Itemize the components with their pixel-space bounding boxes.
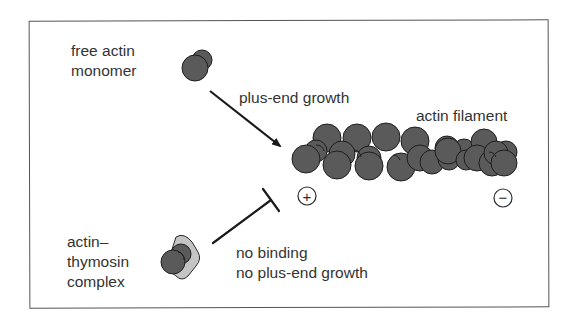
plus-end-marker: + bbox=[298, 187, 316, 205]
plus-end-growth-arrow bbox=[210, 91, 280, 146]
free-actin-monomer-icon bbox=[182, 50, 212, 81]
actin-filament-icon bbox=[292, 123, 517, 181]
diagram-artwork: + − bbox=[0, 0, 575, 325]
plus-sign-icon: + bbox=[303, 188, 312, 205]
minus-end-marker: − bbox=[494, 189, 512, 207]
actin-thymosin-complex-icon bbox=[161, 235, 200, 279]
minus-sign-icon: − bbox=[499, 189, 508, 206]
inhibition-line bbox=[213, 189, 279, 243]
